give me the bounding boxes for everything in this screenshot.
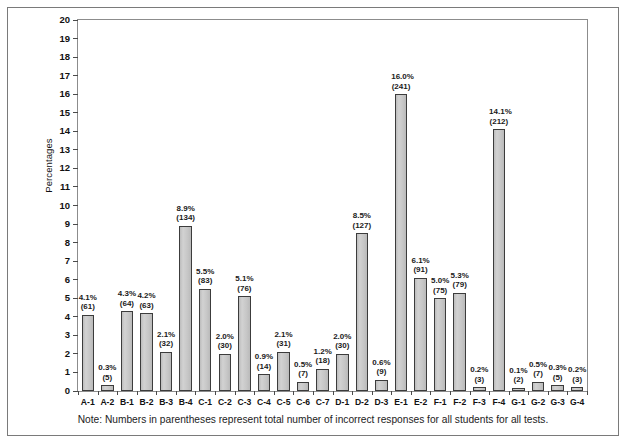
bar[interactable]	[395, 94, 408, 391]
bar[interactable]	[160, 352, 173, 391]
bar[interactable]	[571, 387, 584, 391]
y-axis-tick-label: 3	[65, 328, 70, 341]
x-axis-tick-mark	[352, 391, 353, 395]
bar-count-label: (127)	[352, 221, 372, 231]
x-axis-tick-mark	[548, 391, 549, 395]
bar-count-label: (30)	[215, 341, 235, 351]
x-axis-label: B-2	[137, 397, 157, 407]
bar-group: 6.1%(91)E-2	[411, 20, 431, 391]
bar-percent-label: 2.0%	[216, 332, 234, 341]
x-axis-label: E-2	[411, 397, 431, 407]
x-axis-label: D-3	[372, 397, 392, 407]
bar-percent-label: 8.9%	[177, 204, 195, 213]
top-caption-strip	[0, 0, 627, 5]
bar[interactable]	[140, 313, 153, 391]
bar-count-label: (32)	[156, 339, 176, 349]
bar-percent-label: 5.1%	[235, 274, 253, 283]
bar[interactable]	[316, 369, 329, 391]
bar[interactable]	[101, 385, 114, 391]
y-axis-tick-label: 7	[65, 254, 70, 267]
bar-count-label: (3)	[567, 375, 587, 385]
x-axis-tick-mark	[176, 391, 177, 395]
bar-group: 0.5%(7)G-2	[528, 20, 548, 391]
bar[interactable]	[297, 382, 310, 391]
bar-group: 0.2%(3)F-3	[470, 20, 490, 391]
bar-group: 5.3%(79)F-2	[450, 20, 470, 391]
y-axis-tick-label: 12	[59, 161, 70, 174]
bar-percent-label: 5.5%	[196, 267, 214, 276]
x-axis-label: F-1	[430, 397, 450, 407]
y-axis-title: Percentages	[43, 106, 54, 226]
x-axis-tick-mark	[333, 391, 334, 395]
x-axis-tick-mark	[372, 391, 373, 395]
x-axis-tick-mark	[430, 391, 431, 395]
x-axis-tick-mark	[156, 391, 157, 395]
y-axis-tick-label: 19	[59, 32, 70, 45]
bar-percent-label: 8.5%	[353, 211, 371, 220]
x-axis-tick-mark	[195, 391, 196, 395]
bar[interactable]	[434, 298, 447, 391]
bar-count-label: (63)	[137, 301, 157, 311]
x-axis-label: G-4	[567, 397, 587, 407]
x-axis-label: A-1	[78, 397, 98, 407]
x-axis-label: C-7	[313, 397, 333, 407]
x-axis-label: C-3	[235, 397, 255, 407]
bar-percent-label: 2.0%	[333, 332, 351, 341]
bar-group: 2.0%(30)C-2	[215, 20, 235, 391]
x-axis-tick-mark	[78, 391, 79, 395]
bar[interactable]	[336, 354, 349, 391]
x-axis-tick-mark	[254, 391, 255, 395]
x-axis-label: G-2	[528, 397, 548, 407]
x-axis-tick-mark	[391, 391, 392, 395]
x-axis-tick-mark	[489, 391, 490, 395]
bar[interactable]	[473, 387, 486, 391]
x-axis-label: F-4	[489, 397, 509, 407]
x-axis-tick-mark	[98, 391, 99, 395]
x-axis-tick-mark	[137, 391, 138, 395]
y-axis-tick-label: 2	[65, 347, 70, 360]
y-axis-tick-label: 10	[59, 199, 70, 212]
bar[interactable]	[493, 129, 506, 391]
x-axis-label: F-3	[470, 397, 490, 407]
x-axis-label: F-2	[450, 397, 470, 407]
bar-count-label: (76)	[235, 284, 255, 294]
bar[interactable]	[375, 380, 388, 391]
bar-count-label: (134)	[176, 213, 196, 223]
y-axis-tick-label: 20	[59, 13, 70, 26]
x-axis-label: C-1	[195, 397, 215, 407]
y-axis-tick-label: 18	[59, 50, 70, 63]
bar[interactable]	[258, 374, 271, 391]
y-axis-tick-label: 13	[59, 143, 70, 156]
bar[interactable]	[532, 382, 545, 391]
bar-percent-label: 0.2%	[470, 365, 488, 374]
bar-group: 14.1%(212)F-4	[489, 20, 509, 391]
bar-count-label: (7)	[293, 369, 313, 379]
plot-inner: 201918171615141312111098765432104.1%(61)…	[78, 20, 587, 391]
x-axis-label: B-1	[117, 397, 137, 407]
bar-count-label: (241)	[391, 82, 411, 92]
bar-group: 0.1%(2)G-1	[509, 20, 529, 391]
bar[interactable]	[219, 354, 232, 391]
bar-group: 5.0%(75)F-1	[430, 20, 450, 391]
bar-percent-label: 0.6%	[372, 358, 390, 367]
x-axis-tick-mark	[450, 391, 451, 395]
x-axis-label: D-2	[352, 397, 372, 407]
bar[interactable]	[121, 311, 134, 391]
bar[interactable]	[551, 385, 564, 391]
bar-percent-label: 4.1%	[79, 293, 97, 302]
x-axis-tick-mark	[235, 391, 236, 395]
bar-group: 16.0%(241)E-1	[391, 20, 411, 391]
x-axis-label: C-6	[293, 397, 313, 407]
x-axis-tick-mark	[274, 391, 275, 395]
bar[interactable]	[238, 296, 251, 391]
x-axis-tick-mark	[509, 391, 510, 395]
y-axis-tick-label: 16	[59, 87, 70, 100]
y-axis-tick-label: 6	[65, 273, 70, 286]
bar-group: 2.0%(30)D-1	[333, 20, 353, 391]
x-axis-tick-mark	[587, 391, 588, 395]
bar[interactable]	[179, 226, 192, 391]
bar[interactable]	[512, 388, 525, 391]
y-axis-tick-label: 14	[59, 124, 70, 137]
bar-percent-label: 4.2%	[137, 291, 155, 300]
y-axis-tick-label: 1	[65, 365, 70, 378]
